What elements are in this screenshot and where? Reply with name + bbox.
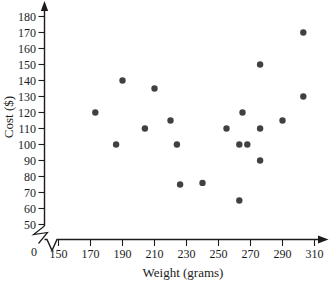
data-point (236, 141, 242, 147)
data-point (244, 141, 250, 147)
data-point (199, 180, 205, 186)
y-tick-label: 60 (24, 202, 36, 216)
x-tick-label: 290 (274, 247, 292, 261)
x-tick-label: 170 (82, 247, 100, 261)
y-tick-label: 90 (24, 154, 36, 168)
y-tick-label: 180 (18, 10, 36, 24)
y-tick-label: 110 (18, 122, 36, 136)
data-point (236, 197, 242, 203)
y-axis-arrowhead-icon (41, 1, 48, 11)
x-tick-label: 190 (114, 247, 132, 261)
data-point (142, 125, 148, 131)
data-point (113, 141, 119, 147)
data-point (167, 117, 173, 123)
x-tick-label: 310 (306, 247, 324, 261)
y-tick-label: 160 (18, 42, 36, 56)
y-tick-label: 100 (18, 138, 36, 152)
y-tick-label: 50 (24, 218, 36, 232)
x-tick-label: 270 (242, 247, 260, 261)
data-point (239, 109, 245, 115)
x-tick-label: 150 (50, 247, 68, 261)
data-point (223, 125, 229, 131)
y-tick-label: 70 (24, 186, 36, 200)
data-point (257, 125, 263, 131)
x-axis-title: Weight (grams) (143, 265, 224, 280)
data-point (119, 77, 125, 83)
y-tick-label: 130 (18, 90, 36, 104)
data-point (300, 29, 306, 35)
y-tick-label: 170 (18, 26, 36, 40)
data-point (257, 157, 263, 163)
x-tick-label: 230 (178, 247, 196, 261)
x-tick-label: 210 (146, 247, 164, 261)
data-point (257, 61, 263, 67)
data-point (279, 117, 285, 123)
x-axis-arrowhead-icon (318, 235, 329, 243)
scatter-chart: 1801701601501401301201101009080706050 15… (0, 0, 331, 288)
x-axis-ticks: 150170190210230250270290310 (50, 240, 324, 262)
y-axis-title: Cost ($) (1, 96, 16, 138)
y-tick-label: 120 (18, 106, 36, 120)
data-point (92, 109, 98, 115)
data-points (92, 29, 306, 203)
data-point (151, 85, 157, 91)
y-tick-label: 140 (18, 74, 36, 88)
data-point (177, 181, 183, 187)
y-tick-label: 80 (24, 170, 36, 184)
x-tick-label: 250 (210, 247, 228, 261)
y-tick-label: 150 (18, 58, 36, 72)
data-point (174, 141, 180, 147)
scatter-plot-figure: 1801701601501401301201101009080706050 15… (0, 0, 331, 288)
data-point (300, 93, 306, 99)
origin-label: 0 (31, 245, 37, 259)
y-axis-ticks: 1801701601501401301201101009080706050 (18, 10, 45, 232)
